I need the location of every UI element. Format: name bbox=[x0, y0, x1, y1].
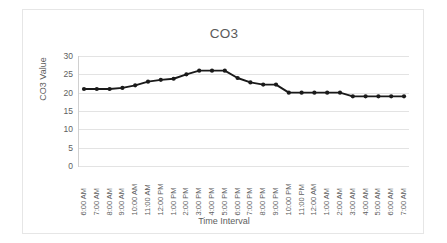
data-point-marker bbox=[108, 87, 112, 91]
x-tick-label: 3:00 AM bbox=[348, 187, 356, 215]
data-point-marker bbox=[210, 69, 214, 73]
x-tick-label: 8:00 AM bbox=[105, 187, 113, 215]
chart-card: CO3 CO3 Value 302520151050 6:00 AM7:00 A… bbox=[22, 9, 424, 234]
data-point-marker bbox=[95, 87, 99, 91]
x-tick-label: 8:00 PM bbox=[259, 187, 267, 215]
data-point-marker bbox=[146, 80, 150, 84]
series-path bbox=[84, 71, 404, 97]
x-tick-label: 6:00 PM bbox=[233, 187, 241, 215]
plot-area bbox=[79, 56, 409, 166]
x-tick-label: 11:00 PM bbox=[297, 183, 305, 215]
x-tick-label: 5:00 PM bbox=[220, 187, 228, 215]
x-tick-label: 12:00 PM bbox=[156, 183, 164, 215]
x-tick-label: 2:00 AM bbox=[336, 187, 344, 215]
y-tick-label: 25 bbox=[43, 69, 73, 79]
x-tick-label: 6:00 AM bbox=[387, 187, 395, 215]
x-tick-label: 5:00 AM bbox=[374, 187, 382, 215]
data-point-marker bbox=[364, 94, 368, 98]
gridline bbox=[79, 166, 409, 167]
series-line bbox=[79, 56, 409, 166]
data-point-marker bbox=[172, 77, 176, 81]
data-point-marker bbox=[248, 80, 252, 84]
data-point-marker bbox=[287, 91, 291, 95]
data-point-marker bbox=[325, 91, 329, 95]
x-tick-label: 1:00 AM bbox=[323, 187, 331, 215]
data-point-marker bbox=[133, 83, 137, 87]
data-point-marker bbox=[236, 76, 240, 80]
y-tick-label: 30 bbox=[43, 51, 73, 61]
y-tick-label: 0 bbox=[43, 161, 73, 171]
y-tick-label: 20 bbox=[43, 88, 73, 98]
data-point-marker bbox=[312, 91, 316, 95]
x-tick-label: 6:00 AM bbox=[80, 187, 88, 215]
x-tick-label: 1:00 PM bbox=[169, 187, 177, 215]
x-tick-label: 10:00 PM bbox=[284, 183, 292, 215]
data-point-marker bbox=[402, 94, 406, 98]
y-tick-label: 10 bbox=[43, 124, 73, 134]
x-tick-label: 3:00 PM bbox=[195, 187, 203, 215]
data-point-marker bbox=[120, 86, 124, 90]
data-point-marker bbox=[223, 69, 227, 73]
x-tick-label: 7:00 AM bbox=[400, 187, 408, 215]
y-tick-label: 15 bbox=[43, 106, 73, 116]
data-point-marker bbox=[274, 83, 278, 87]
data-point-marker bbox=[389, 94, 393, 98]
x-axis-title: Time Interval bbox=[23, 216, 425, 226]
x-tick-label: 11:00 AM bbox=[144, 184, 152, 215]
data-point-marker bbox=[300, 91, 304, 95]
data-point-marker bbox=[159, 78, 163, 82]
x-tick-label: 9:00 PM bbox=[272, 187, 280, 215]
data-point-marker bbox=[376, 94, 380, 98]
data-point-marker bbox=[261, 83, 265, 87]
x-tick-label: 9:00 AM bbox=[118, 187, 126, 215]
x-tick-label: 4:00 AM bbox=[361, 187, 369, 215]
chart-title: CO3 bbox=[23, 26, 425, 41]
x-tick-label: 2:00 PM bbox=[182, 187, 190, 215]
y-tick-label: 5 bbox=[43, 143, 73, 153]
x-tick-label: 4:00 PM bbox=[208, 187, 216, 215]
data-point-marker bbox=[197, 69, 201, 73]
y-axis-tick-labels: 302520151050 bbox=[41, 56, 73, 166]
x-tick-label: 7:00 AM bbox=[92, 187, 100, 215]
data-point-marker bbox=[82, 87, 86, 91]
data-point-marker bbox=[338, 91, 342, 95]
data-point-marker bbox=[351, 94, 355, 98]
x-tick-label: 12:00 AM bbox=[310, 183, 318, 215]
x-tick-label: 7:00 PM bbox=[246, 187, 254, 215]
data-point-marker bbox=[184, 72, 188, 76]
x-axis-tick-labels: 6:00 AM7:00 AM8:00 AM9:00 AM10:00 AM11:0… bbox=[79, 169, 409, 215]
x-tick-label: 10:00 AM bbox=[131, 183, 139, 215]
